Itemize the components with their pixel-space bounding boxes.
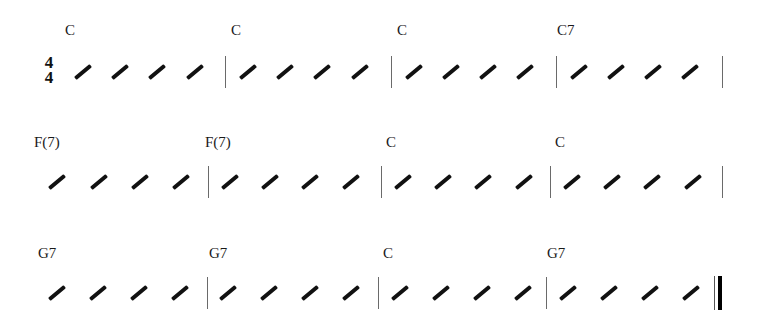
beat-slash (641, 285, 659, 301)
chord-symbol: C (386, 135, 396, 150)
beat-slash (643, 174, 661, 190)
beat-slash (313, 64, 331, 80)
beat-slash (473, 285, 491, 301)
chord-symbol: F(7) (34, 135, 60, 150)
beat-slash (563, 174, 581, 190)
chord-symbol: G7 (209, 246, 227, 261)
beat-slash (603, 174, 621, 190)
beat-slash (171, 285, 189, 301)
beat-slash (130, 285, 148, 301)
beat-slash (172, 174, 190, 190)
beat-slash (260, 285, 278, 301)
beat-slash (515, 174, 533, 190)
chord-symbol: C (65, 23, 75, 38)
beat-slash (434, 174, 452, 190)
final-barline-thin (714, 276, 715, 310)
beat-slash (48, 285, 66, 301)
beat-slash (516, 64, 534, 80)
beat-slash (432, 285, 450, 301)
bar-line (225, 56, 226, 88)
beat-slash (644, 64, 662, 80)
beat-slash (514, 285, 532, 301)
bar-line (391, 56, 392, 88)
chord-symbol: C (231, 23, 241, 38)
beat-slash (48, 174, 66, 190)
beat-slash (351, 64, 369, 80)
bar-line (208, 166, 209, 198)
beat-slash (479, 64, 497, 80)
beat-slash (186, 64, 204, 80)
beat-slash (111, 64, 129, 80)
chord-symbol: C (555, 135, 565, 150)
chord-symbol: G7 (547, 246, 565, 261)
beat-slash (607, 64, 625, 80)
beat-slash (239, 64, 257, 80)
beat-slash (301, 174, 319, 190)
beat-slash (684, 174, 702, 190)
beat-slash (276, 64, 294, 80)
bar-line (546, 277, 547, 309)
beat-slash (342, 174, 360, 190)
chord-symbol: C (397, 23, 407, 38)
beat-slash (148, 64, 166, 80)
beat-slash (131, 174, 149, 190)
chord-symbol: F(7) (205, 135, 231, 150)
beat-slash (261, 174, 279, 190)
chord-symbol: C (383, 246, 393, 261)
bar-line (722, 56, 723, 88)
beat-slash (405, 64, 423, 80)
bar-line (550, 166, 551, 198)
beat-slash (74, 64, 92, 80)
beat-slash (342, 285, 360, 301)
beat-slash (89, 285, 107, 301)
beat-slash (682, 285, 700, 301)
final-barline-thick (718, 276, 722, 310)
beat-slash (474, 174, 492, 190)
beat-slash (219, 285, 237, 301)
bar-line (378, 277, 379, 309)
beat-slash (442, 64, 460, 80)
beat-slash (391, 285, 409, 301)
beat-slash (301, 285, 319, 301)
beat-slash (90, 174, 108, 190)
beat-slash (570, 64, 588, 80)
beat-slash (221, 174, 239, 190)
bar-line (556, 56, 557, 88)
bar-line (722, 166, 723, 198)
beat-slash (559, 285, 577, 301)
beat-slash (681, 64, 699, 80)
chord-symbol: G7 (38, 246, 56, 261)
time-signature-bottom: 4 (43, 70, 55, 85)
bar-line (381, 166, 382, 198)
beat-slash (394, 174, 412, 190)
bar-line (207, 277, 208, 309)
chord-symbol: C7 (557, 23, 575, 38)
beat-slash (600, 285, 618, 301)
